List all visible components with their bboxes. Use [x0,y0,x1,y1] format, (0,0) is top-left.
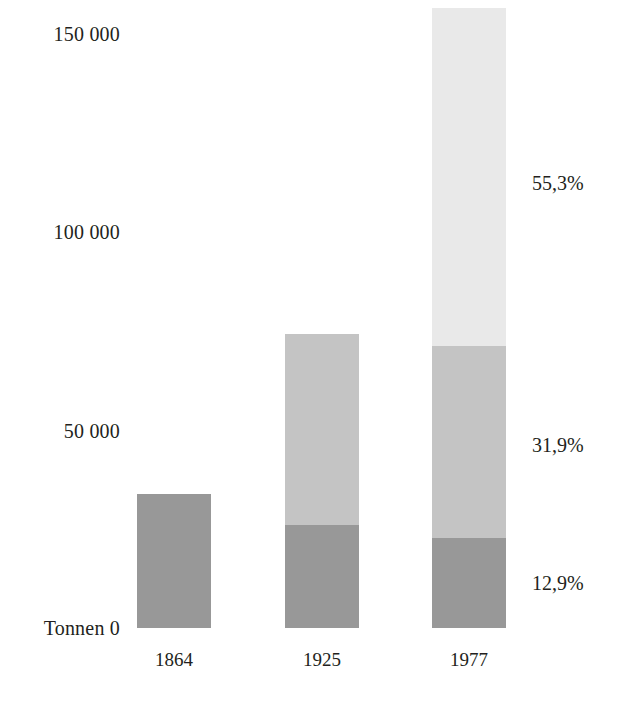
chart-container: 150 000 100 000 50 000 Tonnen 0 1864 192… [0,0,620,704]
percent-label-bottom-segment: 12,9% [532,573,584,593]
percentage-annotations: 55,3% 31,9% 12,9% [0,0,620,704]
percent-label-top-segment: 55,3% [532,173,584,193]
percent-label-middle-segment: 31,9% [532,435,584,455]
